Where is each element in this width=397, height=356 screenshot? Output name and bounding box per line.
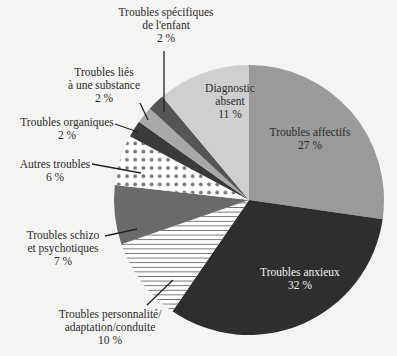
label-enfant-line2: de l'enfant	[106, 19, 226, 32]
label-schizo: Troubles schizo et psychotiques 7 %	[18, 229, 108, 268]
label-substance-pct: 2 %	[49, 92, 159, 105]
label-absent-line1: Diagnostic	[190, 82, 270, 95]
label-personnalite-pct: 10 %	[40, 334, 180, 347]
label-personnalite: Troubles personnalité/ adaptation/condui…	[40, 308, 180, 347]
label-schizo-line2: et psychotiques	[18, 242, 108, 255]
label-absent-line2: absent	[190, 95, 270, 108]
label-affectifs-pct: 27 %	[250, 139, 370, 152]
label-substance: Troubles liés à une substance 2 %	[49, 66, 159, 105]
label-schizo-line1: Troubles schizo	[18, 229, 108, 242]
label-substance-line1: Troubles liés	[49, 66, 159, 79]
label-personnalite-line2: adaptation/conduite	[40, 321, 180, 334]
label-schizo-pct: 7 %	[18, 255, 108, 268]
label-personnalite-line1: Troubles personnalité/	[40, 308, 180, 321]
label-autres-pct: 6 %	[5, 171, 105, 184]
label-anxieux-line1: Troubles anxieux	[240, 266, 360, 279]
label-enfant-line1: Troubles spécifiques	[106, 6, 226, 19]
label-affectifs: Troubles affectifs 27 %	[250, 126, 370, 152]
label-substance-line2: à une substance	[49, 79, 159, 92]
label-enfant-pct: 2 %	[106, 32, 226, 45]
label-affectifs-line1: Troubles affectifs	[250, 126, 370, 139]
label-anxieux-pct: 32 %	[240, 279, 360, 292]
label-absent-pct: 11 %	[190, 108, 270, 121]
label-autres-line1: Autres troubles	[5, 158, 105, 171]
label-autres: Autres troubles 6 %	[5, 158, 105, 184]
label-anxieux: Troubles anxieux 32 %	[240, 266, 360, 292]
label-absent: Diagnostic absent 11 %	[190, 82, 270, 121]
label-enfant: Troubles spécifiques de l'enfant 2 %	[106, 6, 226, 45]
label-organiques: Troubles organiques 2 %	[2, 116, 132, 142]
label-organiques-pct: 2 %	[2, 129, 132, 142]
label-organiques-line1: Troubles organiques	[2, 116, 132, 129]
